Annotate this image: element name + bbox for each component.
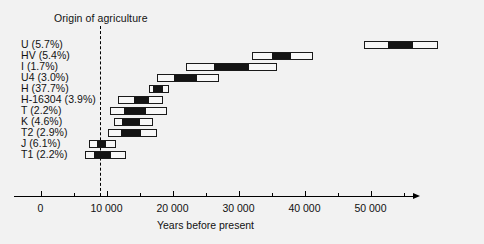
range-bar-k	[114, 118, 153, 126]
x-axis-major-tick	[305, 191, 306, 196]
range-bar-t2	[108, 129, 157, 137]
range-bar-h-16304	[118, 96, 163, 104]
x-axis-tick-label: 10 000	[90, 202, 122, 214]
range-bar-core	[124, 108, 146, 114]
range-bar-core	[214, 64, 249, 70]
origin-of-agriculture-label: Origin of agriculture	[54, 12, 148, 24]
range-bar-core	[272, 53, 291, 59]
range-bar-core	[122, 119, 140, 125]
range-bar-u4	[157, 74, 219, 82]
x-axis-major-tick	[107, 191, 108, 196]
x-axis-title: Years before present	[157, 219, 254, 231]
x-axis-major-tick	[239, 191, 240, 196]
range-bar-core	[94, 152, 111, 158]
range-bar-core	[153, 86, 162, 92]
range-bar-t	[110, 107, 166, 115]
range-bar-core	[121, 130, 141, 136]
row-label-t1: T1 (2.2%)	[21, 148, 68, 160]
range-bar-core	[134, 97, 150, 103]
x-axis-line	[14, 196, 413, 197]
x-axis-tick-label: 20 000	[156, 202, 188, 214]
x-axis-tick-label: 40 000	[288, 202, 320, 214]
range-bar-h	[149, 85, 169, 93]
plot-area: Origin of agriculture U (5.7%)HV (5.4%)I…	[0, 0, 484, 244]
range-bar-core	[388, 42, 413, 48]
x-axis-tick-label: 0	[38, 202, 44, 214]
x-axis-minor-tick	[140, 193, 141, 197]
range-bar-u	[364, 41, 439, 49]
x-axis-minor-tick	[74, 193, 75, 197]
x-axis-minor-tick	[206, 193, 207, 197]
x-axis-major-tick	[371, 191, 372, 196]
x-axis-major-tick	[173, 191, 174, 196]
range-bar-core	[174, 75, 197, 81]
range-bar-i	[186, 63, 278, 71]
origin-of-agriculture-line	[100, 26, 101, 196]
x-axis-arrow-icon	[413, 193, 420, 199]
range-bar-t1	[85, 151, 126, 159]
range-bar-hv	[252, 52, 313, 60]
x-axis-major-tick	[41, 191, 42, 196]
x-axis-tick-label: 30 000	[222, 202, 254, 214]
range-bar-j	[89, 140, 116, 148]
range-bar-core	[97, 141, 106, 147]
x-axis-minor-tick	[404, 193, 405, 197]
x-axis-minor-tick	[272, 193, 273, 197]
x-axis-minor-tick	[338, 193, 339, 197]
figure-canvas: Origin of agriculture U (5.7%)HV (5.4%)I…	[0, 0, 484, 244]
x-axis-tick-label: 50 000	[354, 202, 386, 214]
